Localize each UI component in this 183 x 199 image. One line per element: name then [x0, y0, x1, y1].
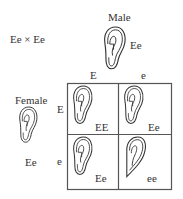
female-label: Female	[15, 95, 47, 106]
cell-genotype-1: EE	[95, 122, 108, 133]
male-label: Male	[108, 12, 131, 23]
cell-genotype-2: Ee	[148, 122, 160, 133]
row-allele-2: e	[57, 156, 62, 167]
cross-label: Ee × Ee	[10, 34, 45, 45]
cell-ear-icon-ee-lower-right	[127, 137, 146, 177]
column-allele-2: e	[141, 70, 146, 81]
cell-ear-icon-ee-lower-left	[74, 137, 92, 174]
female-ear-icon	[20, 107, 37, 142]
female-genotype: Ee	[25, 157, 37, 168]
cell-genotype-4: ee	[147, 173, 157, 184]
column-allele-1: E	[90, 70, 97, 81]
cell-ear-icon-ee-upper-right	[125, 86, 143, 123]
cell-ear-icon-ee-upper	[74, 86, 92, 123]
cell-genotype-3: Ee	[95, 173, 107, 184]
male-ear-icon	[105, 27, 125, 69]
male-genotype: Ee	[130, 40, 142, 51]
row-allele-1: E	[57, 104, 64, 115]
